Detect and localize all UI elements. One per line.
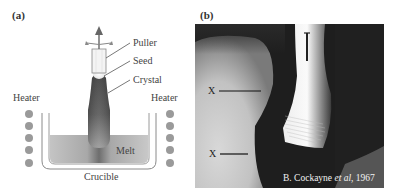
photo-credit: B. Cockayne et al, 1967 — [283, 173, 375, 183]
panel-b-label: (b) — [200, 9, 213, 21]
heater-dot-icon — [166, 134, 174, 142]
crystal-leader — [108, 80, 130, 93]
heater-dot-icon — [25, 159, 33, 167]
heater-dot-icon — [166, 146, 174, 154]
credit-etal: et al — [334, 173, 351, 183]
label-puller: Puller — [133, 37, 157, 48]
label-heater-left: Heater — [13, 92, 40, 103]
puller-rod — [92, 49, 106, 73]
label-melt: Melt — [116, 145, 135, 156]
credit-year: , 1967 — [351, 173, 375, 183]
marker-x-top: X — [208, 85, 215, 96]
label-heater-right: Heater — [151, 92, 178, 103]
seed-leader — [104, 61, 130, 76]
heater-dot-icon — [166, 122, 174, 130]
heater-dot-icon — [25, 134, 33, 142]
marker-x-bottom: X — [209, 148, 216, 159]
heater-dot-icon — [166, 159, 174, 167]
label-crucible: Crucible — [84, 171, 118, 182]
heater-dot-icon — [166, 110, 174, 118]
heater-dot-icon — [25, 122, 33, 130]
heater-dot-icon — [25, 146, 33, 154]
puller-leader — [106, 43, 130, 58]
label-crystal: Crystal — [133, 74, 162, 85]
micrograph-photo: X X B. Cockayne et al, 1967 — [195, 24, 384, 188]
heater-dot-icon — [25, 110, 33, 118]
label-seed: Seed — [133, 55, 152, 66]
credit-author: B. Cockayne — [283, 173, 334, 183]
